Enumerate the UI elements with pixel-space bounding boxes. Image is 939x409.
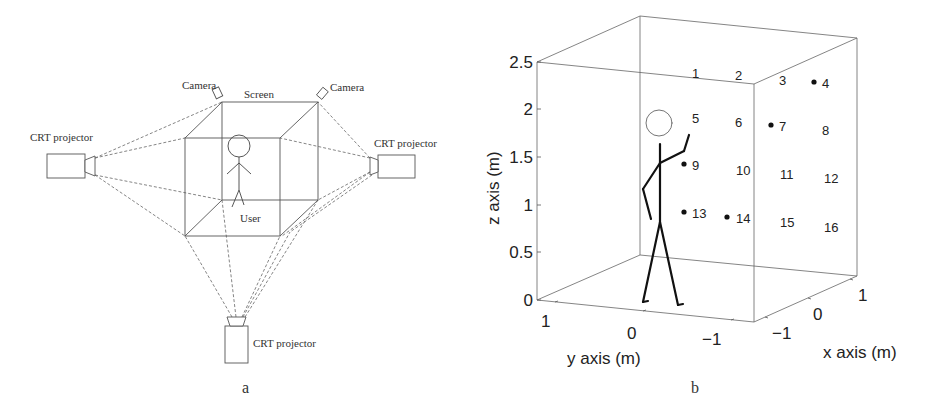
projectors <box>47 154 415 363</box>
svg-text:0: 0 <box>524 291 533 310</box>
svg-text:12: 12 <box>824 171 838 186</box>
marker-14 <box>724 214 729 219</box>
panel-a-cave-diagram: Camera Camera Screen User CRT projector … <box>30 79 437 396</box>
y-tick-labels: 1 0 −1 <box>541 312 721 349</box>
marker-4 <box>811 79 816 84</box>
projector-left-lens <box>85 156 95 176</box>
camera-icon <box>316 87 328 99</box>
z-tick-labels: 2.5 2 1.5 1 0.5 0 <box>509 53 533 310</box>
marker-13 <box>681 209 686 214</box>
svg-text:1.5: 1.5 <box>509 148 533 167</box>
panel-b-3d-plot: 2.5 2 1.5 1 0.5 0 z axis (m) 1 0 −1 y ax… <box>484 16 897 396</box>
projector-bottom-lens <box>227 317 246 326</box>
svg-text:3: 3 <box>779 73 786 88</box>
svg-text:2: 2 <box>524 100 533 119</box>
panel-a-caption: a <box>242 379 249 396</box>
camera-right-label: Camera <box>330 81 364 93</box>
projector-right-label: CRT projector <box>374 137 437 149</box>
svg-text:1: 1 <box>858 286 867 305</box>
marker-9 <box>681 161 686 166</box>
svg-text:10: 10 <box>736 163 750 178</box>
svg-text:−1: −1 <box>772 324 791 343</box>
svg-text:8: 8 <box>822 123 829 138</box>
user-figure <box>227 135 251 207</box>
svg-text:9: 9 <box>692 158 699 173</box>
z-ticks <box>537 62 853 320</box>
projector-bottom-label: CRT projector <box>253 337 316 349</box>
marker-7 <box>768 122 773 127</box>
svg-text:0: 0 <box>813 305 822 324</box>
projection-rays <box>95 102 372 317</box>
screen-label: Screen <box>244 88 274 100</box>
svg-text:7: 7 <box>779 119 786 134</box>
projector-left-label: CRT projector <box>30 131 93 143</box>
x-tick-labels: −1 0 1 <box>772 286 867 343</box>
svg-text:11: 11 <box>780 167 794 182</box>
figure: Camera Camera Screen User CRT projector … <box>0 0 939 409</box>
svg-text:2.5: 2.5 <box>509 53 533 72</box>
projector-right-lens <box>370 157 378 175</box>
projector-right-icon <box>378 155 415 178</box>
y-axis-label: y axis (m) <box>567 349 641 368</box>
svg-text:4: 4 <box>822 76 829 91</box>
svg-text:6: 6 <box>735 115 742 130</box>
point-labels: 1 2 3 4 5 6 7 8 9 10 11 12 13 14 15 16 <box>692 66 838 235</box>
svg-text:15: 15 <box>780 215 794 230</box>
z-axis-label: z axis (m) <box>484 151 503 225</box>
highlighted-markers <box>681 79 816 219</box>
x-axis-label: x axis (m) <box>823 343 897 362</box>
svg-text:5: 5 <box>692 111 699 126</box>
svg-text:2: 2 <box>735 68 742 83</box>
svg-text:0: 0 <box>627 324 636 343</box>
panel-b-caption: b <box>691 379 699 396</box>
svg-text:1: 1 <box>524 196 533 215</box>
svg-text:14: 14 <box>736 211 750 226</box>
svg-text:16: 16 <box>824 220 838 235</box>
camera-left-label: Camera <box>182 79 216 91</box>
svg-text:0.5: 0.5 <box>509 243 533 262</box>
user-figure-3d <box>643 110 689 305</box>
svg-text:1: 1 <box>692 66 699 81</box>
user-label: User <box>240 212 261 224</box>
svg-text:13: 13 <box>692 206 706 221</box>
projector-bottom-icon <box>225 326 248 363</box>
projector-left-icon <box>47 154 85 178</box>
svg-text:−1: −1 <box>702 330 721 349</box>
svg-text:1: 1 <box>541 312 550 331</box>
